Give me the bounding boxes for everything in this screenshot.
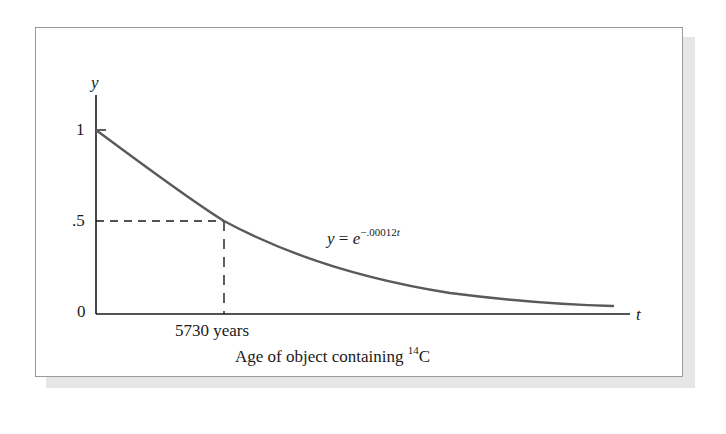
x-axis-title: Age of object containing 14C xyxy=(235,348,430,365)
equation-exponent-coefficient: −.00012 xyxy=(360,226,396,238)
curve-equation-label: y = e−.00012t xyxy=(327,230,400,247)
chart-plot xyxy=(0,0,726,434)
y-tick-label-0: 0 xyxy=(77,303,86,320)
y-tick-label-half: .5 xyxy=(72,212,85,229)
x-axis-title-text: Age of object containing xyxy=(235,347,408,366)
y-tick-label-1: 1 xyxy=(76,121,85,138)
equation-exponent: −.00012t xyxy=(360,226,400,238)
equation-equals: = xyxy=(335,229,353,248)
x-axis-symbol: t xyxy=(636,306,641,323)
equation-lhs: y xyxy=(327,229,335,248)
y-axis-symbol: y xyxy=(91,74,99,91)
x-tick-label-5730: 5730 years xyxy=(175,322,249,339)
isotope-mass-number: 14 xyxy=(408,344,419,356)
isotope-element: C xyxy=(419,347,430,366)
equation-exponent-variable: t xyxy=(397,226,400,238)
decay-curve-main xyxy=(96,130,613,306)
